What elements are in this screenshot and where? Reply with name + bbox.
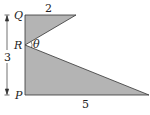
diagram-canvas: Q R P θ 2 3 5: [0, 0, 150, 115]
dimension-label-top: 2: [45, 2, 52, 15]
point-label-q: Q: [14, 9, 23, 22]
point-label-r: R: [13, 39, 22, 52]
dimension-label-bottom: 5: [82, 98, 89, 111]
point-label-p: P: [14, 89, 23, 102]
lower-triangle: [25, 45, 149, 95]
angle-arc: [31, 42, 32, 49]
angle-label-theta: θ: [33, 38, 40, 51]
dimension-label-left: 3: [4, 51, 11, 64]
